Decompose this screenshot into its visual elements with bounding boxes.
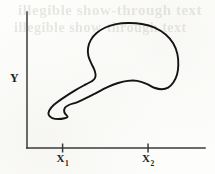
y-axis-label: Y — [10, 71, 19, 86]
x1-subscript: 1 — [65, 159, 69, 168]
x-tick-label-x1: X1 — [57, 152, 69, 167]
x2-subscript: 2 — [150, 159, 154, 168]
figure-container: illegible show-through text illegible sh… — [0, 0, 215, 174]
plot-area — [0, 0, 215, 174]
x1-base: X — [57, 152, 65, 164]
x2-base: X — [142, 152, 150, 164]
closed-region-curve — [48, 23, 178, 119]
x-tick-label-x2: X2 — [142, 152, 154, 167]
